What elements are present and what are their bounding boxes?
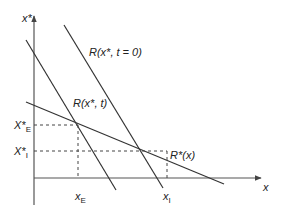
reaction-function-diagram: x* x R(x*, t = 0) R(x*, t) R*(x) X*E X*I… (0, 0, 289, 218)
x-axis-label: x (262, 181, 269, 193)
svg-text:X*I: X*I (13, 145, 28, 160)
tick-xstar-i: X*I (13, 145, 28, 160)
tick-x-i: xI (162, 190, 171, 205)
y-axis-label: x* (21, 12, 33, 24)
tick-x-e: xE (74, 190, 86, 205)
label-r-t0: R(x*, t = 0) (89, 46, 142, 58)
label-r-t: R(x*, t) (73, 97, 108, 109)
tick-xstar-e: X*E (13, 119, 31, 134)
curve-r-t (26, 40, 116, 190)
label-r-star: R*(x) (170, 149, 195, 161)
svg-text:xI: xI (162, 190, 171, 205)
curve-r-star (26, 102, 224, 184)
svg-text:X*E: X*E (13, 119, 31, 134)
svg-text:xE: xE (74, 190, 86, 205)
